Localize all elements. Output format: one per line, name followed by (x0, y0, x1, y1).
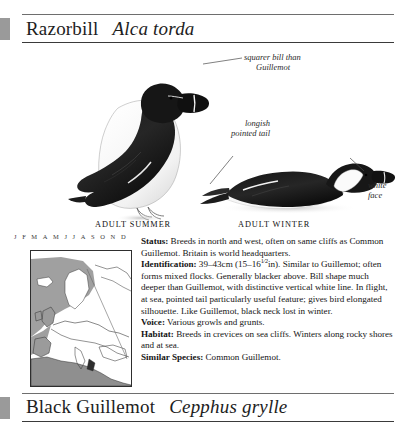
label-status: Status: (141, 236, 168, 246)
paragraph-voice: Voice: Various growls and grunts. (141, 317, 393, 329)
header-spine-black-guillemot (0, 397, 10, 419)
text-status: Breeds in north and west, often on same … (141, 236, 383, 258)
razorbill-adult-winter-figure (200, 164, 395, 214)
text-identification-a: 39–43cm (15–16 (199, 259, 261, 269)
month-jul: J (73, 233, 76, 240)
caption-adult-winter: ADULT WINTER (238, 220, 310, 229)
leader-longish-tail (210, 156, 233, 184)
month-feb: F (22, 233, 26, 240)
distribution-map-graphic (31, 251, 131, 386)
text-habitat: Breeds in crevices on sea cliffs. Winter… (141, 329, 393, 351)
month-nov: N (111, 233, 116, 240)
paragraph-similar-species: Similar Species: Common Guillemot. (141, 352, 393, 364)
paragraph-status: Status: Breeds in north and west, often … (141, 236, 393, 259)
razorbill-adult-summer-figure (68, 84, 209, 222)
callout-squarer-bill: squarer bill than Guillemot (244, 52, 301, 72)
month-apr: A (43, 233, 48, 240)
header-rule-bottom-black-guillemot (22, 421, 394, 422)
callout-white-face: white face (368, 180, 386, 200)
illustration-plate: squarer bill than Guillemot longish poin… (0, 36, 402, 231)
header-rule-top-black-guillemot (22, 393, 394, 394)
callout-longish-tail: longish pointed tail (182, 118, 270, 138)
text-voice: Various growls and grunts. (167, 317, 265, 327)
month-mar: M (31, 233, 37, 240)
field-guide-page: RazorbillAlca torda (0, 0, 402, 430)
species-scientific-name-black-guillemot: Cepphus grylle (169, 396, 287, 417)
month-jun: J (64, 233, 67, 240)
month-oct: O (100, 233, 105, 240)
month-jan: J (14, 233, 17, 240)
label-voice: Voice: (141, 317, 165, 327)
leader-squarer-bill (203, 58, 242, 64)
label-similar-species: Similar Species: (141, 352, 203, 362)
paragraph-habitat: Habitat: Breeds in crevices on sea cliff… (141, 329, 393, 352)
species-account-text: Status: Breeds in north and west, often … (141, 236, 393, 364)
caption-adult-summer: ADULT SUMMER (95, 220, 171, 229)
distribution-map (30, 250, 132, 387)
text-similar-species: Common Guillemot. (206, 352, 281, 362)
label-identification: Identification: (141, 259, 197, 269)
text-identification-fraction: 1⁄2 (261, 257, 268, 264)
species-common-name-black-guillemot: Black Guillemot (26, 396, 155, 417)
month-strip: J F M A M J J A S O N D (14, 233, 126, 240)
month-dec: D (121, 233, 126, 240)
map-ireland (35, 311, 42, 321)
header-rule-top-razorbill (22, 14, 394, 15)
month-may: M (53, 233, 59, 240)
species-header-black-guillemot: Black GuillemotCepphus grylle (26, 396, 288, 418)
month-sep: S (91, 233, 95, 240)
month-aug: A (81, 233, 86, 240)
label-habitat: Habitat: (141, 329, 174, 339)
paragraph-identification: Identification: 39–43cm (15–161⁄2in). Si… (141, 259, 393, 317)
